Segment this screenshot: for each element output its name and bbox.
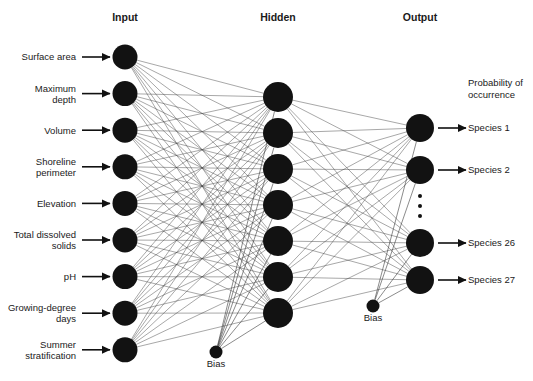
probability-note-group: Probability ofoccurrence	[468, 77, 523, 100]
input-label: Volume	[44, 125, 76, 136]
output-node	[406, 156, 434, 184]
output-label: Species 2	[468, 164, 510, 175]
output-node	[406, 266, 434, 294]
input-node	[113, 191, 138, 216]
output-bias-node	[367, 300, 380, 313]
input-node	[113, 118, 138, 143]
output-label: Species 26	[468, 237, 515, 248]
connections-hidden-to-output	[287, 100, 411, 309]
input-label: Growing-degreedays	[8, 302, 76, 324]
input-label: Surface area	[22, 51, 77, 62]
input-label: Maximumdepth	[35, 83, 76, 105]
input-label: pH	[64, 271, 76, 282]
input-node	[113, 337, 138, 362]
layer-title-output: Output	[403, 11, 438, 23]
ellipsis-dot	[418, 204, 422, 208]
connections-input-to-hidden	[131, 60, 270, 347]
output-ellipsis-group	[418, 194, 422, 218]
hidden-node	[263, 226, 293, 256]
hidden-bias-node	[210, 346, 223, 359]
hidden-node	[263, 262, 293, 292]
input-labels-group: Surface areaMaximumdepthVolumeShorelinep…	[8, 51, 77, 360]
probability-note-line: Probability of	[468, 77, 523, 88]
output-label: Species 1	[468, 122, 510, 133]
hidden-bias-label: Bias	[207, 358, 226, 369]
output-arrows-group	[438, 128, 466, 280]
ellipsis-dot	[418, 194, 422, 198]
hidden-node	[263, 298, 293, 328]
input-label: Summerstratification	[25, 339, 76, 361]
input-label: Total dissolvedsolids	[14, 229, 77, 251]
hidden-node	[263, 154, 293, 184]
input-arrows-group	[82, 57, 110, 350]
bias-labels-group: BiasBias	[207, 312, 383, 369]
ellipsis-dot	[418, 214, 422, 218]
output-node	[406, 229, 434, 257]
output-node	[406, 114, 434, 142]
output-bias-label: Bias	[364, 312, 383, 323]
input-nodes-group	[113, 45, 138, 363]
hidden-nodes-group	[263, 82, 293, 328]
layer-title-input: Input	[112, 11, 138, 23]
input-node	[113, 228, 138, 253]
probability-note-line: occurrence	[468, 89, 515, 100]
output-labels-group: Species 1Species 2Species 26Species 27	[468, 122, 515, 285]
layer-title-hidden: Hidden	[260, 11, 296, 23]
input-node	[113, 154, 138, 179]
input-node	[113, 45, 138, 70]
input-node	[113, 264, 138, 289]
input-label: Elevation	[37, 198, 76, 209]
input-label: Shorelineperimeter	[36, 156, 76, 178]
neural-network-figure: Surface areaMaximumdepthVolumeShorelinep…	[0, 0, 533, 381]
hidden-node	[263, 118, 293, 148]
input-node	[113, 81, 138, 106]
input-node	[113, 301, 138, 326]
hidden-node	[263, 190, 293, 220]
hidden-node	[263, 82, 293, 112]
network-canvas: Surface areaMaximumdepthVolumeShorelinep…	[0, 0, 533, 381]
output-label: Species 27	[468, 274, 515, 285]
